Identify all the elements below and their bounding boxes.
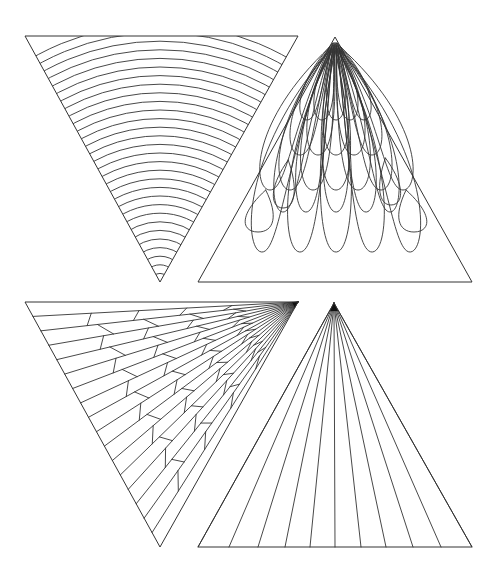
connector [182,388,194,390]
scales-triangle [198,37,472,282]
fan-line [258,303,334,547]
connector [210,350,221,351]
fan-line [334,303,413,547]
triangle-outline [25,36,298,282]
connector [133,311,139,321]
connector [246,342,251,353]
ray [144,302,298,518]
connector [147,414,161,419]
connector [113,358,116,373]
connector [238,316,249,317]
scale-loop [399,190,427,232]
connector [163,354,176,359]
connector [256,356,260,369]
connector [100,336,103,350]
connector [197,326,210,329]
connector [205,432,206,450]
connector [126,381,128,397]
connector [144,328,149,339]
scale-loop [341,51,421,252]
connector [139,403,141,420]
connector [144,319,159,326]
connector [251,349,255,361]
connector [203,338,215,340]
geometric-patterns-figure [0,0,504,581]
fan-line [334,303,361,547]
scale-loop [260,47,330,190]
fan-line [334,303,386,547]
ray [57,302,298,360]
connector [87,313,91,325]
fan-line [334,303,335,547]
ray [128,302,298,489]
connector [153,337,167,343]
connector [135,392,149,398]
ray [89,302,298,417]
connector [190,314,203,318]
ray [136,302,298,504]
connector [172,371,185,374]
connector [122,369,137,376]
fan-line [334,303,441,547]
scale-loop [245,190,273,232]
connector [258,347,266,352]
connector [159,437,172,441]
connector [97,324,113,334]
connector [152,426,153,444]
triangle-outline [25,302,298,547]
ray [104,302,298,446]
connector [234,309,246,311]
connector [172,459,184,462]
fan-line [285,303,334,547]
connector [110,347,126,355]
web-triangle [25,302,298,547]
ray [81,302,298,403]
connector [191,406,203,407]
patterns-svg [0,0,504,581]
